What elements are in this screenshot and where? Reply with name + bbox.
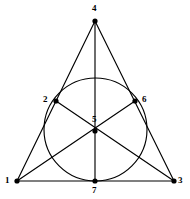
- vertex-dot-4: [92, 18, 97, 23]
- point-label-1: 1: [5, 176, 10, 185]
- fano-plane-diagram: 1234567: [0, 0, 190, 199]
- vertex-dot-1: [14, 178, 19, 183]
- vertex-dot-2: [53, 98, 58, 103]
- point-label-7: 7: [92, 186, 97, 195]
- line-1-5-6: [17, 101, 135, 181]
- line-3-5-2: [56, 101, 174, 181]
- point-label-5: 5: [92, 115, 97, 124]
- vertex-dot-7: [92, 178, 97, 183]
- point-label-6: 6: [142, 95, 147, 104]
- vertex-dot-5: [92, 128, 97, 133]
- point-label-3: 3: [178, 176, 183, 185]
- fano-plane-canvas: [0, 0, 190, 199]
- vertex-dot-3: [171, 178, 176, 183]
- vertex-dot-6: [132, 98, 137, 103]
- point-label-4: 4: [92, 4, 97, 13]
- segments-group: [17, 21, 174, 181]
- point-label-2: 2: [43, 95, 48, 104]
